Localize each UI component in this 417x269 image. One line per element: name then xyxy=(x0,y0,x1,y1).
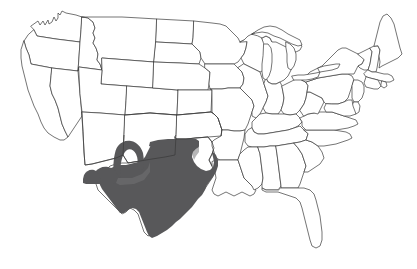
us-map-svg xyxy=(0,0,417,269)
state-colorado xyxy=(125,86,178,115)
state-oklahoma xyxy=(175,112,222,139)
state-kansas xyxy=(177,90,212,115)
state-north-dakota xyxy=(156,19,194,44)
state-wyoming xyxy=(101,58,154,88)
state-nebraska xyxy=(153,62,210,90)
us-map-container xyxy=(0,0,417,269)
state-rhode-island xyxy=(381,81,387,88)
